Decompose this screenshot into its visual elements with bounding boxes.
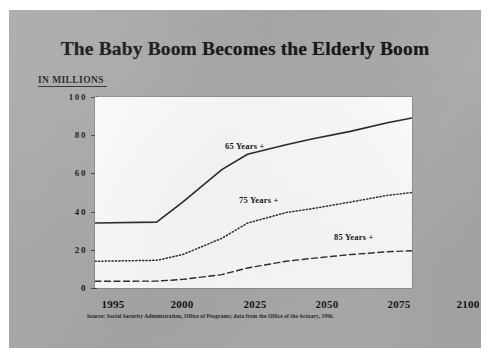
y-tick-0: [91, 288, 96, 289]
y-axis-units-label: IN MILLIONS: [38, 75, 107, 87]
y-tick-label-20: 20: [43, 245, 87, 255]
series-annotation-85-years: 85 Years +: [334, 232, 374, 242]
y-tick-label-80: 80: [43, 130, 87, 140]
x-tick-label-1995: 1995: [102, 298, 125, 310]
page-title: The Baby Boom Becomes the Elderly Boom: [9, 38, 481, 60]
x-tick-label-2100: 2100: [457, 298, 480, 310]
series-annotation-65-years: 65 Years +: [225, 141, 265, 151]
y-tick-label-40: 40: [43, 207, 87, 217]
x-tick-label-2075: 2075: [388, 298, 411, 310]
chart-line-svg: [95, 97, 412, 288]
slide-canvas: The Baby Boom Becomes the Elderly Boom I…: [9, 10, 481, 348]
x-tick-label-2025: 2025: [244, 298, 267, 310]
source-note: Source: Social Security Administration, …: [87, 313, 334, 319]
y-tick-label-100: 100: [43, 92, 87, 102]
x-tick-label-2000: 2000: [171, 298, 194, 310]
x-tick-label-2050: 2050: [316, 298, 339, 310]
y-axis-labels: 100 80 60 40 20 0: [35, 97, 87, 288]
series-annotation-75-years: 75 Years +: [239, 195, 279, 205]
y-tick-label-60: 60: [43, 168, 87, 178]
y-tick-label-0: 0: [43, 283, 87, 293]
x-axis-labels: 1995 2000 2025 2050 2075 2100: [69, 298, 449, 314]
chart-plot-area: [95, 97, 412, 288]
series-line-65-years: [95, 118, 412, 223]
series-line-85-years: [95, 251, 412, 282]
